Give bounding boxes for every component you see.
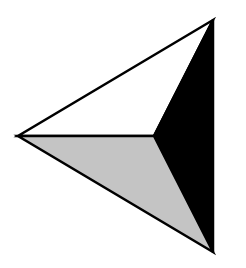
figure-canvas bbox=[0, 0, 246, 268]
pyramid-diagram bbox=[0, 0, 246, 268]
